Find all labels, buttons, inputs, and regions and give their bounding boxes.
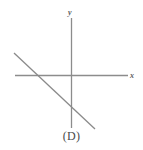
y-axis-label: y: [67, 8, 72, 17]
plot-line-negative-slope: [14, 53, 95, 129]
x-axis-label: x: [129, 71, 134, 80]
figure-panel: x y (D): [0, 0, 143, 150]
coordinate-plane-graph: x y: [0, 0, 143, 150]
figure-caption: (D): [0, 129, 143, 143]
